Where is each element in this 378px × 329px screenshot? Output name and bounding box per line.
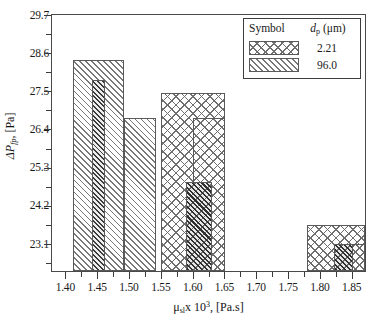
legend-header-symbol: Symbol <box>249 22 301 35</box>
x-tick-minor <box>240 272 241 277</box>
y-tick-major <box>44 244 51 245</box>
x-tick-major <box>288 272 289 279</box>
plot-area: Symbol dp (μm) 2.21 96.0 <box>51 14 366 272</box>
legend-header-dp: dp (μm) <box>301 22 355 38</box>
x-axis-title: μslx 103, [Pa.s] <box>51 298 366 317</box>
y-tick-label: 29.7 <box>9 10 49 22</box>
x-tick-major <box>352 272 353 279</box>
y-tick-major <box>44 91 51 92</box>
y-axis-title-delta-p: ΔP <box>3 145 17 159</box>
x-axis-title-multiplier: x 10 <box>185 300 206 314</box>
legend-row-96[interactable]: 96.0 <box>249 57 355 74</box>
legend-swatch-diagonal-hatch-icon <box>249 58 299 72</box>
x-tick-major <box>161 272 162 279</box>
y-tick-major <box>44 206 51 207</box>
x-tick-minor <box>336 272 337 277</box>
legend-header-unit: (μm) <box>320 22 346 34</box>
legend-value-221: 2.21 <box>299 42 355 55</box>
y-axis-title-subscript: fp <box>9 139 18 145</box>
y-axis-title-unit: , [Pa] <box>3 113 17 139</box>
x-tick-minor <box>177 272 178 277</box>
x-tick-major <box>65 272 66 279</box>
bar-96-4-overlap[interactable] <box>334 244 353 271</box>
x-tick-major <box>193 272 194 279</box>
legend-header: Symbol dp (μm) <box>249 22 355 38</box>
y-tick-label: 23.1 <box>9 239 49 251</box>
x-tick-major <box>320 272 321 279</box>
x-tick-minor <box>81 272 82 277</box>
x-tick-minor <box>209 272 210 277</box>
legend-row-221[interactable]: 2.21 <box>249 40 355 57</box>
x-tick-minor <box>304 272 305 277</box>
bar-96-1-overlap[interactable] <box>92 80 105 271</box>
y-tick-major <box>44 129 51 130</box>
y-tick-major <box>44 168 51 169</box>
legend-swatch-cross-hatch-icon <box>249 41 299 55</box>
bar-96-3-overlap[interactable] <box>186 182 212 271</box>
x-tick-major <box>129 272 130 279</box>
y-tick-major <box>44 53 51 54</box>
y-tick-label: 24.2 <box>9 200 49 212</box>
x-tick-major <box>224 272 225 279</box>
legend-value-96: 96.0 <box>299 59 355 72</box>
chart-figure: 29.7 28.6 27.5 26.4 25.3 24.2 23.1 1.40 … <box>0 0 378 329</box>
x-tick-label: 1.85 <box>329 281 375 293</box>
x-axis-title-unit: , [Pa.s] <box>210 300 244 314</box>
x-tick-minor <box>272 272 273 277</box>
bar-96-2[interactable] <box>124 118 156 271</box>
x-tick-minor <box>113 272 114 277</box>
y-axis-title: ΔPfp, [Pa] <box>4 81 20 191</box>
y-tick-major <box>44 15 51 16</box>
x-tick-major <box>97 272 98 279</box>
x-tick-minor <box>145 272 146 277</box>
legend: Symbol dp (μm) 2.21 96.0 <box>243 18 361 79</box>
x-tick-major <box>256 272 257 279</box>
y-tick-label: 28.6 <box>9 48 49 60</box>
